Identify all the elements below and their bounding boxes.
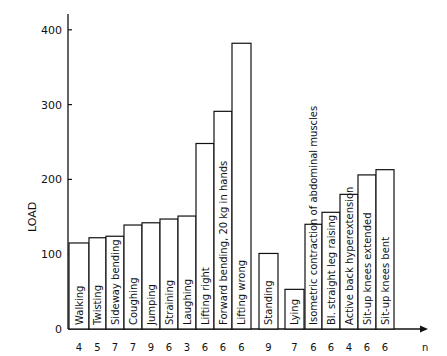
n-value: 7 [130, 342, 136, 353]
bar-group: Lifting right [196, 143, 214, 329]
bar-group: Laughing [178, 216, 196, 329]
bar-chart: 0100200300400 WalkingTwistingSideway ben… [0, 0, 447, 356]
bar-group: Twisting [89, 238, 106, 329]
bar-group: Jumping [142, 223, 160, 329]
bar-label: Coughing [128, 277, 139, 325]
bar-group: Standing [259, 253, 278, 329]
bar-label: Sideway bending [110, 239, 121, 325]
bar-label: Bl. straight leg raising [326, 215, 337, 325]
bar-group: Active back hyperextension [340, 187, 358, 329]
n-value: 4 [76, 342, 82, 353]
bar-group: Lifting wrong [232, 43, 251, 329]
x-axis-label: n [422, 342, 428, 353]
bar-label: Sit-up knees bent [380, 237, 391, 325]
n-value: 5 [94, 342, 100, 353]
n-value: 7 [112, 342, 118, 353]
y-tick-label: 400 [41, 24, 62, 37]
bar-group: Isometric contraction of abdominal muscl… [305, 106, 322, 329]
n-value: 6 [166, 342, 172, 353]
n-value: 6 [364, 342, 370, 353]
bar-label: Walking [74, 286, 85, 325]
bar-label: Jumping [146, 284, 157, 326]
bar-group: Sideway bending [106, 236, 124, 329]
bar-label: Forward bending, 20 kg in hands [218, 161, 229, 325]
n-value: 3 [184, 342, 190, 353]
bar-label: Lifting right [200, 267, 211, 325]
n-value: 6 [220, 342, 226, 353]
y-axis-label: LOAD [26, 202, 39, 232]
y-tick-label: 0 [55, 323, 62, 336]
bar-label: Twisting [92, 285, 103, 326]
y-tick-label: 300 [41, 99, 62, 112]
bar-label: Lying [289, 299, 300, 325]
n-value: 6 [382, 342, 388, 353]
bar-label: Standing [263, 280, 274, 325]
bars: WalkingTwistingSideway bendingCoughingJu… [69, 43, 394, 329]
n-value: 4 [346, 342, 352, 353]
bar-group: Forward bending, 20 kg in hands [214, 111, 232, 329]
n-value: 6 [328, 342, 334, 353]
n-value: 6 [202, 342, 208, 353]
bar-group: Lying [285, 289, 304, 329]
bar-label: Sit-up knees extended [362, 213, 373, 326]
bar-group: Bl. straight leg raising [322, 212, 340, 329]
n-value: 7 [291, 342, 297, 353]
bar-group: Sit-up knees bent [376, 170, 394, 329]
n-value: 6 [310, 342, 316, 353]
x-axis-arrow-icon [420, 326, 428, 333]
n-value: 9 [265, 342, 271, 353]
n-labels: 45779636669766466 [76, 342, 388, 353]
bar-label: Active back hyperextension [344, 187, 355, 325]
bar-group: Straining [160, 219, 178, 329]
bar-label: Laughing [182, 279, 193, 325]
bar-group: Coughing [124, 225, 142, 329]
n-value: 6 [238, 342, 244, 353]
bar-group: Walking [69, 243, 89, 329]
bar-label: Isometric contraction of abdominal muscl… [308, 106, 319, 325]
n-value: 9 [148, 342, 154, 353]
bar-group: Sit-up knees extended [358, 175, 376, 329]
bar-label: Straining [164, 280, 175, 325]
bar-label: Lifting wrong [236, 260, 247, 325]
y-tick-label: 200 [41, 173, 62, 186]
y-tick-label: 100 [41, 248, 62, 261]
